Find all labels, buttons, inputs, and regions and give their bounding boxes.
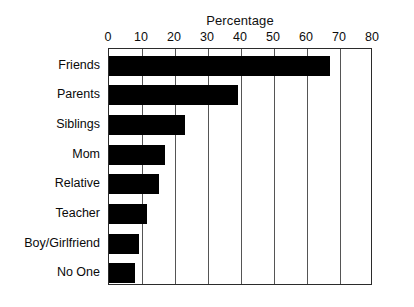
- x-axis-tick-labels: 01020304050607080: [0, 30, 414, 46]
- bars-group: [109, 49, 371, 284]
- category-label-no-one: No One: [0, 265, 100, 279]
- bar-siblings: [109, 115, 185, 135]
- bar-row: [109, 234, 371, 254]
- bar-mom: [109, 145, 165, 165]
- category-labels: FriendsParentsSiblingsMomRelativeTeacher…: [0, 48, 104, 285]
- bar-row: [109, 145, 371, 165]
- bar-boy-girlfriend: [109, 234, 139, 254]
- category-label-mom: Mom: [0, 147, 100, 161]
- category-label-teacher: Teacher: [0, 206, 100, 220]
- x-tick-label-80: 80: [352, 30, 392, 45]
- bar-row: [109, 204, 371, 224]
- chart-title: Percentage: [108, 13, 372, 28]
- bar-row: [109, 56, 371, 76]
- bar-chart: Percentage 01020304050607080 FriendsPare…: [0, 0, 414, 307]
- bar-teacher: [109, 204, 147, 224]
- plot-area: [108, 48, 372, 285]
- bar-row: [109, 115, 371, 135]
- category-label-boy-girlfriend: Boy/Girlfriend: [0, 236, 100, 250]
- bar-parents: [109, 85, 238, 105]
- bar-row: [109, 174, 371, 194]
- bar-relative: [109, 174, 159, 194]
- category-label-parents: Parents: [0, 87, 100, 101]
- category-label-friends: Friends: [0, 58, 100, 72]
- category-label-siblings: Siblings: [0, 117, 100, 131]
- category-label-relative: Relative: [0, 176, 100, 190]
- bar-no-one: [109, 263, 135, 283]
- bar-row: [109, 85, 371, 105]
- bar-row: [109, 263, 371, 283]
- bar-friends: [109, 56, 330, 76]
